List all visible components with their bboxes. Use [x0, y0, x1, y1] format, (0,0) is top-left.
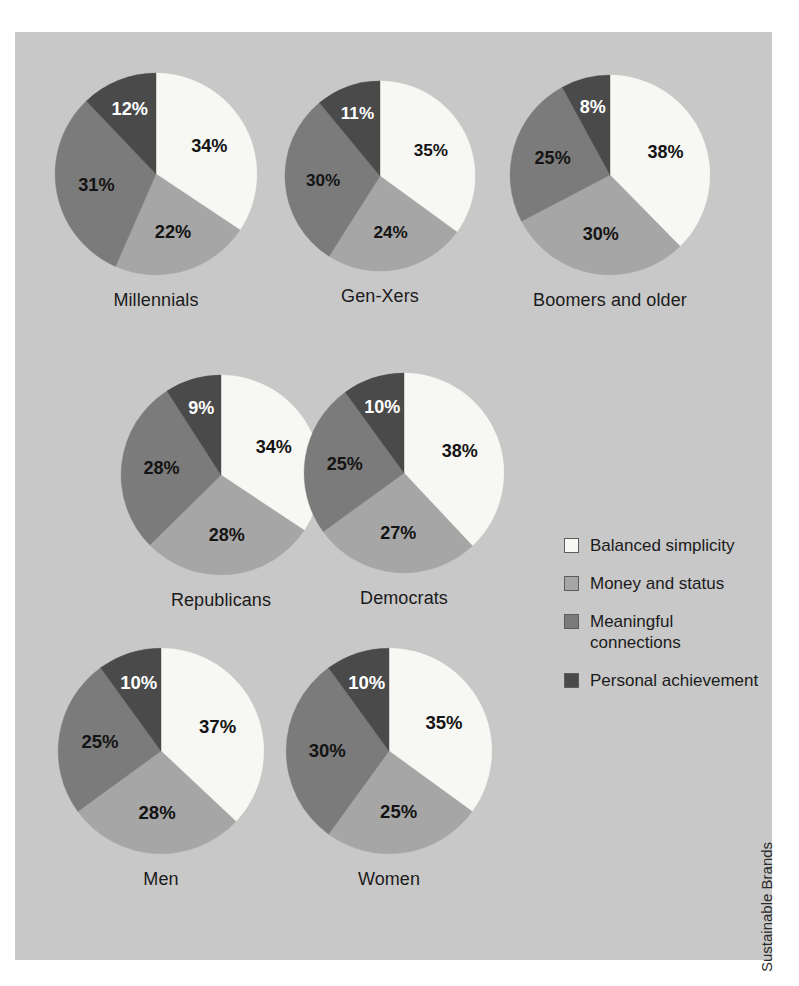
legend-item: Balanced simplicity [564, 535, 764, 556]
pie-slice-value: 35% [425, 712, 462, 733]
chart-legend: Balanced simplicityMoney and statusMeani… [564, 535, 764, 708]
legend-item: Money and status [564, 573, 764, 594]
pie-slice-value: 28% [143, 458, 179, 478]
pie-chart-cell: 38%30%25%8%Boomers and older [507, 72, 713, 311]
pie-svg: 35%24%30%11% [282, 78, 478, 274]
pie-chart-cell: 34%22%31%12%Millennials [52, 70, 260, 311]
pie-chart-label: Women [283, 869, 495, 890]
pie-slice-value: 35% [414, 140, 448, 160]
pie-slice-value: 24% [374, 222, 408, 242]
pie-chart-cell: 35%24%30%11%Gen-Xers [282, 78, 478, 307]
pie-svg: 35%25%30%10% [283, 645, 495, 857]
pie-slice-value: 34% [256, 437, 292, 457]
pie-slice-value: 30% [306, 170, 340, 190]
pie-svg: 34%22%31%12% [52, 70, 260, 278]
pie-chart: 34%28%28%9% [118, 372, 324, 578]
pie-slice-value: 31% [78, 175, 114, 195]
pie-chart-label: Gen-Xers [282, 286, 478, 307]
pie-chart-cell: 38%27%25%10%Democrats [301, 370, 507, 609]
pie-chart-label: Republicans [118, 590, 324, 611]
pie-slice-value: 10% [120, 672, 157, 693]
pie-slice-value: 25% [82, 731, 119, 752]
pie-slice-value: 25% [380, 801, 417, 822]
pie-slice-value: 11% [341, 103, 374, 123]
pie-chart-label: Men [55, 869, 267, 890]
pie-chart: 35%25%30%10% [283, 645, 495, 857]
pie-slice-value: 28% [209, 525, 245, 545]
pie-slice-value: 10% [364, 397, 400, 417]
chart-panel: 34%22%31%12%Millennials35%24%30%11%Gen-X… [15, 32, 772, 960]
pie-slice-value: 12% [112, 99, 148, 119]
pie-slice-value: 8% [580, 97, 606, 117]
pie-slice-value: 37% [199, 716, 236, 737]
pie-chart: 34%22%31%12% [52, 70, 260, 278]
pie-slice-value: 27% [380, 523, 416, 543]
pie-svg: 37%28%25%10% [55, 645, 267, 857]
pie-slice-value: 22% [155, 222, 191, 242]
source-credit-label: Sustainable Brands [758, 842, 775, 972]
pie-chart: 37%28%25%10% [55, 645, 267, 857]
pie-chart-label: Boomers and older [507, 290, 713, 311]
pie-slice-value: 34% [191, 136, 227, 156]
pie-slice-value: 25% [535, 148, 571, 168]
pie-chart-cell: 37%28%25%10%Men [55, 645, 267, 890]
legend-item: Personal achievement [564, 670, 764, 691]
legend-item-label: Money and status [590, 573, 724, 594]
pie-svg: 38%27%25%10% [301, 370, 507, 576]
legend-swatch-icon [564, 673, 579, 688]
pie-slice-value: 28% [139, 802, 176, 823]
pie-slice-value: 38% [442, 441, 478, 461]
legend-item-label: Balanced simplicity [590, 535, 735, 556]
pie-svg: 38%30%25%8% [507, 72, 713, 278]
legend-swatch-icon [564, 538, 579, 553]
pie-chart-label: Millennials [52, 290, 260, 311]
pie-slice-value: 30% [309, 740, 346, 761]
pie-svg: 34%28%28%9% [118, 372, 324, 578]
legend-item-label: Meaningful connections [590, 611, 764, 653]
pie-chart-cell: 35%25%30%10%Women [283, 645, 495, 890]
legend-item: Meaningful connections [564, 611, 764, 653]
source-credit: Sustainable Brands [775, 782, 797, 972]
legend-item-label: Personal achievement [590, 670, 758, 691]
pie-slice-value: 10% [348, 672, 385, 693]
pie-slice-value: 9% [188, 398, 214, 418]
legend-swatch-icon [564, 614, 579, 629]
pie-chart: 38%30%25%8% [507, 72, 713, 278]
pie-chart: 35%24%30%11% [282, 78, 478, 274]
pie-chart-grid: 34%22%31%12%Millennials35%24%30%11%Gen-X… [15, 32, 772, 960]
pie-chart-cell: 34%28%28%9%Republicans [118, 372, 324, 611]
pie-slice-value: 38% [647, 142, 683, 162]
pie-chart: 38%27%25%10% [301, 370, 507, 576]
pie-slice-value: 25% [327, 454, 363, 474]
pie-chart-label: Democrats [301, 588, 507, 609]
pie-slice-value: 30% [583, 224, 619, 244]
legend-swatch-icon [564, 576, 579, 591]
